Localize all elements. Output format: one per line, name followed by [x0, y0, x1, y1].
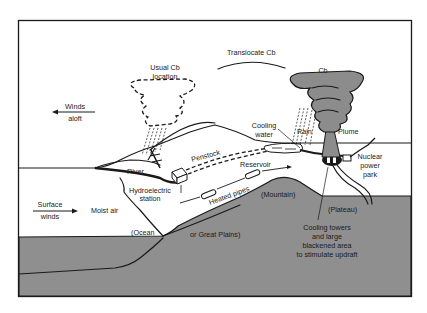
reservoir-label: Reservoir: [240, 160, 271, 169]
cooling-towers-label-3: blackened area: [302, 241, 351, 250]
translocate-cb-label: Translocate Cb: [227, 48, 275, 57]
cb-label: Cb: [318, 66, 327, 75]
moist-air-label: Moist air: [91, 206, 119, 215]
nuclear-label: Nuclear: [358, 152, 383, 161]
usual-cb-label: Usual Cb: [150, 63, 180, 72]
cooling-towers-label-2: and large: [312, 232, 342, 241]
rain-label: Rain: [297, 127, 312, 136]
surface-winds-label: Surface: [38, 200, 63, 209]
plateau-label: (Plateau): [328, 205, 357, 214]
nuclear-label-2: power: [360, 161, 380, 170]
nuclear-label-3: park: [363, 170, 377, 179]
winds-aloft-label-2: aloft: [68, 114, 82, 123]
mountain-label: (Mountain): [261, 190, 295, 199]
plume-label: Plume: [338, 127, 358, 136]
great-plains-label: or Great Plains): [190, 230, 240, 239]
hydroelectric-label-2: station: [139, 194, 160, 203]
cooling-towers-label: Cooling towers: [303, 223, 351, 232]
ocean-label: (Ocean: [131, 228, 155, 237]
cooling-water-label-2: water: [254, 130, 273, 139]
river-label: River: [127, 167, 144, 176]
surface-winds-label-2: winds: [40, 212, 60, 221]
cooling-towers-label-4: to stimulate updraft: [296, 250, 357, 259]
winds-aloft-label: Winds: [65, 102, 85, 111]
cooling-water-label: Cooling: [252, 121, 276, 130]
usual-cb-label-2: location: [153, 72, 178, 81]
weather-modification-diagram: Usual Cb location Translocate Cb Cb Wind…: [0, 0, 427, 313]
